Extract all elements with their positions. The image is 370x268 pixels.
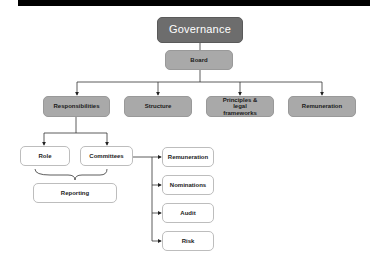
node-label: Board (190, 57, 207, 63)
node-responsibilities: Responsibilities (43, 96, 110, 117)
node-committees: Committees (80, 146, 133, 166)
node-label: Structure (145, 103, 172, 109)
node-label: Nominations (170, 182, 206, 188)
node-label: Remuneration (168, 154, 208, 160)
node-structure: Structure (124, 96, 192, 117)
node-role: Role (20, 146, 70, 166)
node-reporting: Reporting (33, 183, 117, 203)
node-label: Remuneration (302, 103, 342, 109)
node-committee-risk: Risk (162, 231, 214, 251)
node-label: Audit (180, 210, 195, 216)
node-label: Responsibilities (53, 103, 99, 109)
node-label: Principles & legal frameworks (217, 97, 263, 116)
node-governance: Governance (157, 17, 243, 43)
node-committee-nominations: Nominations (162, 175, 214, 195)
node-label: Committees (89, 153, 123, 159)
node-principles-legal-frameworks: Principles & legal frameworks (206, 96, 274, 117)
node-label: Reporting (61, 190, 89, 196)
node-board: Board (165, 50, 233, 70)
node-remuneration: Remuneration (288, 96, 356, 117)
node-label: Risk (182, 238, 195, 244)
node-committee-remuneration: Remuneration (162, 147, 214, 167)
node-label: Governance (169, 24, 231, 36)
node-committee-audit: Audit (162, 203, 214, 223)
node-label: Role (38, 153, 51, 159)
